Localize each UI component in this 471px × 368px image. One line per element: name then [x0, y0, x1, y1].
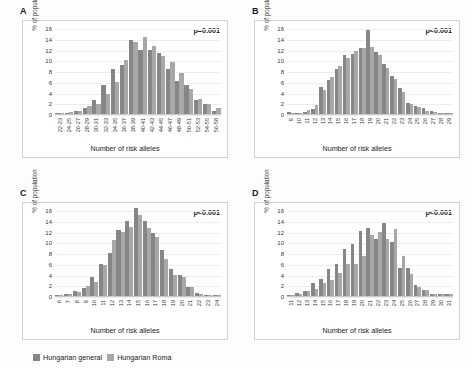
x-tick: 26-27: [73, 117, 82, 147]
x-tick: 23: [203, 299, 212, 329]
y-tick-label: 4: [281, 91, 284, 97]
x-tick-label: 50-51: [186, 118, 192, 132]
x-tick-label: 54-55: [204, 118, 210, 132]
bar-series-container: [55, 210, 221, 296]
x-tick-label: 46-47: [167, 118, 173, 132]
y-tick-label: 2: [49, 101, 52, 107]
bar-group: [125, 210, 134, 296]
bar-group: [350, 28, 358, 114]
y-tick-label: 8: [49, 69, 52, 75]
x-tick: 21: [186, 299, 195, 329]
bar-group: [175, 28, 184, 114]
bar-group: [110, 28, 119, 114]
x-tick-label: 23: [383, 300, 389, 306]
y-tick-label: 14: [277, 219, 284, 225]
x-tick-label: 29: [430, 300, 436, 306]
x-tick: 24: [212, 299, 221, 329]
x-tick: 50-51: [184, 117, 193, 147]
x-tick-label: 17: [335, 300, 341, 306]
y-tick-label: 8: [49, 251, 52, 257]
y-tick-label: 14: [45, 219, 52, 225]
x-tick-label: 22-23: [57, 118, 63, 132]
x-tick: 15: [134, 299, 143, 329]
x-tick-label: 18: [161, 300, 167, 306]
x-tick: 21: [382, 117, 390, 147]
bar-group: [414, 210, 422, 296]
bar-group: [193, 28, 202, 114]
plot-area: [55, 211, 221, 297]
bar-group: [319, 28, 327, 114]
y-tick-label: 0: [49, 294, 52, 300]
x-tick: 20: [374, 117, 382, 147]
x-tick-label: 14: [126, 300, 132, 306]
y-tick-label: 14: [45, 37, 52, 43]
x-tick-label: 30-31: [93, 118, 99, 132]
y-tick-label: 2: [49, 283, 52, 289]
x-tick-label: 27: [430, 118, 436, 124]
x-tick: 6: [55, 299, 64, 329]
gridline: [55, 115, 221, 116]
bar-group: [295, 210, 303, 296]
bar-series-container: [55, 28, 221, 114]
x-tick-label: 29: [446, 118, 452, 124]
x-tick-label: 13: [118, 300, 124, 306]
panel-a: Ap=0.001% of population024681012141622-2…: [6, 6, 231, 161]
x-tick-label: 18: [343, 300, 349, 306]
y-tick-label: 12: [45, 48, 52, 54]
bar-group: [327, 210, 335, 296]
y-tick-label: 12: [277, 230, 284, 236]
x-tick: 8: [72, 299, 81, 329]
x-tick-label: 17: [152, 300, 158, 306]
bar-group: [374, 210, 382, 296]
x-tick: 10: [295, 117, 303, 147]
bar-group: [166, 28, 175, 114]
x-tick: 18: [358, 117, 366, 147]
bar-group: [311, 210, 319, 296]
x-tick: 40-41: [138, 117, 147, 147]
x-tick: 23: [398, 117, 406, 147]
x-tick: 21: [366, 299, 374, 329]
x-tick-label: 9: [83, 300, 89, 303]
bar-group: [406, 210, 414, 296]
bar-group: [358, 210, 366, 296]
x-tick-label: 56-58: [213, 118, 219, 132]
plot-frame: p<0.001% of population024681012141667891…: [22, 202, 228, 340]
x-tick: 30-31: [92, 117, 101, 147]
bar-group: [382, 210, 390, 296]
x-tick: 22: [374, 299, 382, 329]
bar-group: [295, 28, 303, 114]
y-tick-label: 6: [281, 80, 284, 86]
bar-group: [147, 28, 156, 114]
x-tick-label: 24-25: [66, 118, 72, 132]
bar-group: [160, 210, 169, 296]
bar-group: [134, 210, 143, 296]
bar-group: [414, 28, 422, 114]
x-tick-label: 10: [91, 300, 97, 306]
x-tick: 17: [334, 299, 342, 329]
x-tick-label: 28: [422, 300, 428, 306]
plot-area: [287, 211, 453, 297]
x-tick-label: 16: [144, 300, 150, 306]
bar-group: [116, 210, 125, 296]
x-tick: 18: [342, 299, 350, 329]
x-tick: 13: [319, 117, 327, 147]
x-tick: 29: [429, 299, 437, 329]
bar-group: [169, 210, 178, 296]
panel-d: Dp<0.001% of population02468101214161112…: [238, 188, 463, 343]
x-tick: 17: [151, 299, 160, 329]
x-tick: 28: [421, 299, 429, 329]
x-tick-label: 18: [359, 118, 365, 124]
x-tick: 11: [303, 117, 311, 147]
x-tick: 22: [390, 117, 398, 147]
x-tick-label: 14: [312, 300, 318, 306]
x-tick-label: 31: [446, 300, 452, 306]
x-tick-label: 24: [214, 300, 220, 306]
bar-group: [319, 210, 327, 296]
bar-group: [72, 210, 81, 296]
x-tick: 12: [295, 299, 303, 329]
x-tick-label: 11: [100, 300, 106, 306]
bar-group: [445, 28, 453, 114]
bar-group: [366, 28, 374, 114]
panel-letter: B: [252, 6, 259, 16]
y-tick-label: 8: [281, 251, 284, 257]
